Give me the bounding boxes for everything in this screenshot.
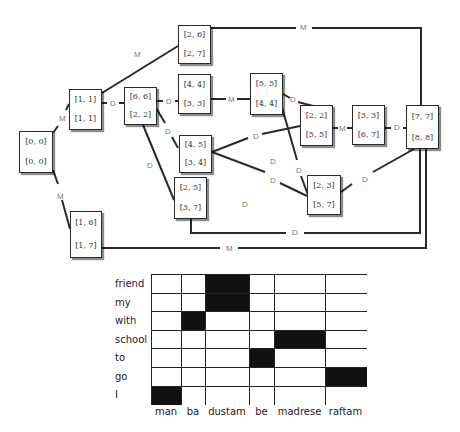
edge-label-m-16-77: M [226,244,233,253]
cell-to-be [250,349,275,368]
node-bottom-value: [4, 4] [256,99,278,109]
row-label-i: I [115,389,118,401]
node-top-value: [3, 3] [358,111,380,121]
edge-m-00-11 [53,126,58,133]
cell-go-be [250,368,275,387]
cell-my-madrese [275,294,326,313]
edge-label-d-55-23: D [296,166,302,175]
node-top-value: [1, 6] [75,218,97,228]
cell-my-man [152,294,182,313]
cell-with-dustam [206,312,250,331]
cell-school-madrese [275,331,326,350]
edge-label-d-66-45: D [165,127,171,136]
node-bottom-value: [5, 5] [306,130,328,140]
cell-my-be [250,294,275,313]
node-6-6: [6, 6] [2, 2] [124,87,157,125]
node-bottom-value: [3, 7] [180,203,202,213]
col-label-madrese: madrese [274,406,325,418]
node-2-3: [2, 3] [5, 7] [307,175,341,215]
cell-to-man [152,349,182,368]
node-7-7: [7, 7] [8, 8] [406,105,439,149]
cell-school-ba [182,331,206,350]
node-bottom-value: [3, 3] [184,99,206,109]
cell-friend-dustam [206,275,250,294]
edge-label-d-55-22: D [290,95,296,104]
node-1-6: [1, 6] [1, 7] [70,211,102,258]
edge-m-26-77b [312,28,421,105]
cell-i-man [152,387,182,406]
node-top-value: [4, 4] [184,80,206,90]
cell-go-man [152,368,182,387]
cell-with-ba [182,312,206,331]
node-bottom-value: [2, 2] [130,110,152,120]
edge-label-d-mid: D [270,157,276,166]
cell-friend-be [250,275,275,294]
edge-label-m-11-26: M [134,50,141,59]
edge-d-25-77 [191,219,286,233]
cell-school-raftam [326,331,367,350]
cell-with-man [152,312,182,331]
cell-school-dustam [206,331,250,350]
row-label-my: my [115,297,131,309]
edge-label-m-22-33: M [339,124,346,133]
node-bottom-value: [6, 7] [358,130,380,140]
node-top-value: [2, 2] [306,111,328,121]
cell-i-dustam [206,387,250,406]
cell-with-be [250,312,275,331]
edge-label-d-lower: D [242,200,248,209]
col-label-ba: ba [181,406,205,418]
cell-to-madrese [275,349,326,368]
edge-m-00-16 [53,170,58,184]
node-top-value: [6, 6] [130,92,152,102]
node-bottom-value: [1, 7] [75,241,97,251]
cell-my-raftam [326,294,367,313]
node-2-2: [2, 2] [5, 5] [300,105,333,146]
node-2-5: [2, 5] [3, 7] [174,177,207,219]
edge-d-45-23 [212,152,265,172]
node-bottom-value: [0, 0] [25,157,47,167]
cell-with-raftam [326,312,367,331]
edge-label-m-00-11: M [59,114,66,123]
cell-with-madrese [275,312,326,331]
node-top-value: [7, 7] [412,112,434,122]
edge-labels: M M M D M D D D M D D D D D D M D D D M [57,23,400,253]
edge-label-m-00-16: M [57,192,64,201]
cell-my-dustam [206,294,250,313]
row-label-school: school [115,334,147,346]
node-top-value: [1, 1] [75,95,97,105]
node-1-1: [1, 1] [1, 1] [69,89,102,130]
row-label-with: with [115,315,136,327]
edge-label-d-25-77: D [292,228,298,237]
edge-label-m-26-77: M [300,23,307,32]
node-top-value: [2, 5] [180,183,202,193]
alignment-grid [151,274,367,405]
cell-to-dustam [206,349,250,368]
edge-label-d-66-25: D [147,161,153,170]
node-top-value: [0, 0] [25,137,47,147]
col-label-be: be [249,406,274,418]
cell-to-raftam [326,349,367,368]
node-bottom-value: [2, 7] [184,49,206,59]
edge-d-23-77b [373,149,414,172]
cell-go-raftam [326,368,367,387]
node-0-0: [0, 0] [0, 0] [19,131,53,173]
edge-d-23-77 [341,184,352,192]
cell-i-ba [182,387,206,406]
cell-to-ba [182,349,206,368]
col-label-raftam: raftam [325,406,366,418]
cell-i-be [250,387,275,406]
node-top-value: [2, 6] [184,30,206,40]
node-bottom-value: [3, 4] [185,158,207,168]
cell-my-ba [182,294,206,313]
row-label-friend: friend [115,278,144,290]
cell-i-raftam [326,387,367,406]
cell-friend-raftam [326,275,367,294]
alignment-graph: M M M D M D D D M D D D D D D M D D D M [0,0,460,270]
edge-d-45-22b [262,126,300,134]
node-5-5: [5, 5] [4, 4] [250,73,283,115]
edge-label-m-44-55: M [228,95,235,104]
cell-go-ba [182,368,206,387]
cell-go-dustam [206,368,250,387]
edge-label-d-45-23: D [270,176,276,185]
node-bottom-value: [5, 7] [313,200,335,210]
